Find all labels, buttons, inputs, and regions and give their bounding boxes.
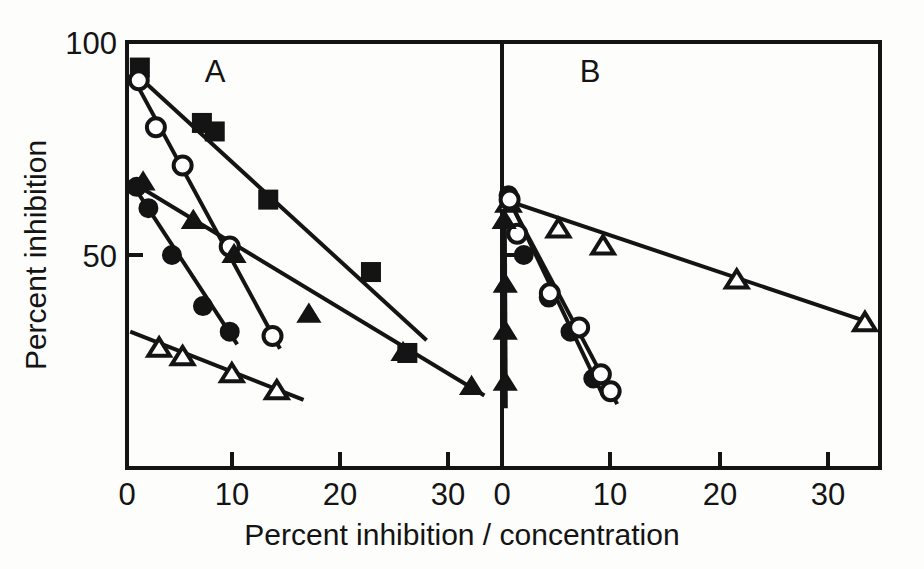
data-point-filled-circle-2 [163, 246, 181, 264]
figure-root: 100 50 Percent inhibition 0 10 20 30 0 1… [0, 0, 924, 569]
x-tick-label-b-20: 20 [703, 477, 737, 512]
x-tick-label-a-10: 10 [215, 477, 249, 512]
data-point-filled-circle-4 [221, 323, 239, 341]
x-tick-label-a-30: 30 [431, 477, 465, 512]
data-point-open-circle-5 [602, 382, 620, 400]
data-point-open-circle-3 [570, 318, 588, 336]
y-axis-title: Percent inhibition [19, 140, 52, 370]
panel-letter-b: B [580, 54, 601, 89]
x-tick-label-b-0: 0 [493, 477, 510, 512]
y-tick-label-50: 50 [83, 239, 117, 274]
data-point-filled-circle-0 [128, 178, 146, 196]
data-point-open-circle-0 [130, 71, 148, 89]
data-point-filled-square-2 [206, 122, 224, 140]
x-tick-label-a-20: 20 [323, 477, 357, 512]
data-point-open-circle-0 [501, 191, 519, 209]
data-point-open-circle-2 [174, 157, 192, 175]
data-point-filled-square-3 [259, 191, 277, 209]
data-point-filled-circle-3 [194, 297, 212, 315]
data-point-open-circle-2 [541, 284, 559, 302]
data-point-filled-square-4 [362, 263, 380, 281]
data-point-open-circle-1 [147, 118, 165, 136]
y-tick-label-100: 100 [65, 26, 117, 61]
x-axis-title: Percent inhibition / concentration [244, 518, 679, 551]
x-tick-label-a-0: 0 [118, 477, 135, 512]
scatchard-plot-svg: 100 50 Percent inhibition 0 10 20 30 0 1… [0, 0, 924, 569]
panel-letter-a: A [205, 54, 226, 89]
data-point-open-circle-4 [264, 327, 282, 345]
x-tick-label-b-30: 30 [811, 477, 845, 512]
x-tick-label-b-10: 10 [593, 477, 627, 512]
data-point-filled-circle-1 [515, 246, 533, 264]
data-point-open-circle-4 [592, 365, 610, 383]
data-point-filled-circle-1 [139, 199, 157, 217]
